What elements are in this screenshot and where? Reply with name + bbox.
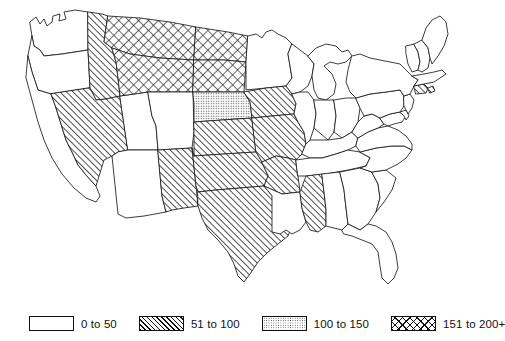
map-legend: 0 to 50 51 to 100 100 to 150 151 to 200+ (0, 306, 454, 341)
state-AZ[interactable] (112, 150, 166, 218)
state-RI[interactable] (428, 86, 435, 93)
legend-label-2: 100 to 150 (314, 318, 369, 330)
legend-label-0: 0 to 50 (81, 318, 117, 330)
us-map-svg (0, 0, 454, 296)
state-MN[interactable] (246, 30, 292, 90)
legend-item-2[interactable]: 100 to 150 (262, 316, 369, 331)
state-MA[interactable] (412, 70, 446, 86)
legend-swatch-none-icon (29, 316, 74, 331)
state-KS[interactable] (194, 118, 256, 156)
legend-label-1: 51 to 100 (191, 318, 240, 330)
state-WI[interactable] (286, 44, 314, 94)
legend-swatch-dots-icon (262, 316, 307, 331)
legend-item-1[interactable]: 51 to 100 (139, 316, 240, 331)
state-IA[interactable] (244, 86, 296, 118)
state-NM[interactable] (158, 148, 198, 212)
legend-swatch-cross-icon (391, 316, 436, 331)
state-IN[interactable] (314, 100, 336, 140)
state-NE[interactable] (193, 92, 252, 122)
state-SD[interactable] (193, 60, 246, 92)
legend-item-0[interactable]: 0 to 50 (29, 316, 117, 331)
state-ND[interactable] (194, 27, 248, 62)
legend-item-3[interactable]: 151 to 200+ (391, 316, 505, 331)
legend-swatch-hatch-icon (139, 316, 184, 331)
states-group (26, 10, 448, 284)
state-FL[interactable] (342, 224, 398, 284)
legend-label-3: 151 to 200+ (443, 318, 505, 330)
state-MI[interactable] (308, 44, 352, 100)
